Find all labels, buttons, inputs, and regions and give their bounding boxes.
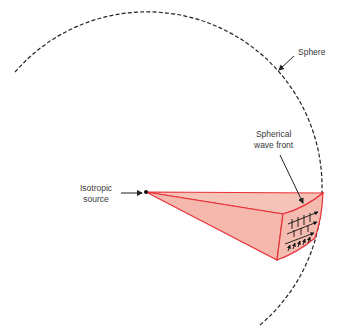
radiation-wedge bbox=[146, 192, 323, 260]
wave-front-label-line1: Spherical bbox=[254, 129, 293, 140]
sphere-arrow bbox=[279, 56, 294, 70]
source-label-line1: Isotropic bbox=[80, 183, 112, 194]
source-label: Isotropic source bbox=[80, 183, 112, 205]
sphere-label-text: Sphere bbox=[298, 47, 325, 57]
sphere-arc bbox=[15, 12, 322, 325]
source-label-line2: source bbox=[80, 194, 112, 205]
source-point bbox=[144, 190, 148, 194]
wave-front-label-line2: wave front bbox=[254, 140, 293, 151]
wave-front-label: Spherical wave front bbox=[254, 129, 293, 151]
diagram-canvas bbox=[0, 0, 339, 331]
sphere-label: Sphere bbox=[298, 47, 325, 58]
